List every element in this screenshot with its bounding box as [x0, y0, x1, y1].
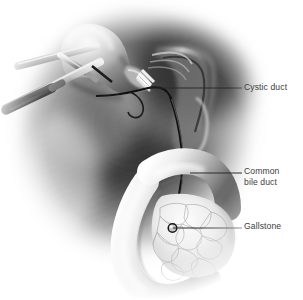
label-cystic-duct: Cystic duct — [244, 82, 287, 93]
medical-illustration-figure: Cystic duct Commonbile duct Gallstone — [0, 0, 303, 300]
label-gallstone: Gallstone — [244, 221, 281, 232]
anatomy-artwork — [0, 0, 303, 300]
label-common-bile-duct-line1: Common — [244, 166, 279, 176]
label-common-bile-duct: Commonbile duct — [244, 166, 279, 187]
label-common-bile-duct-line2: bile duct — [244, 177, 277, 187]
